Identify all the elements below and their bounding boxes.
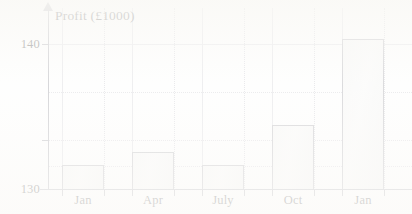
y-axis-label-130: 130 bbox=[0, 182, 40, 197]
chart-title: Profit (£1000) bbox=[55, 8, 135, 24]
gridline-x-1 bbox=[62, 8, 63, 188]
gridline-x-5 bbox=[202, 8, 203, 188]
bar-jan-2 bbox=[342, 39, 384, 189]
x-axis-label-jan-2: Jan bbox=[333, 193, 393, 208]
y-tick-130 bbox=[42, 189, 49, 190]
gridline-x-6 bbox=[244, 8, 245, 188]
y-tick-minor bbox=[42, 140, 49, 141]
gridline-x-10 bbox=[384, 8, 385, 188]
x-axis-label-oct: Oct bbox=[263, 193, 323, 208]
gridline-x-4 bbox=[174, 8, 175, 188]
plot-area: 140 130 Jan Apr July Oct Jan Profit (£10… bbox=[0, 0, 412, 214]
y-axis-arrow-icon bbox=[43, 2, 53, 11]
x-axis-label-jan-1: Jan bbox=[53, 193, 113, 208]
bar-oct bbox=[272, 125, 314, 189]
bar-apr bbox=[132, 152, 174, 189]
gridline-x-2 bbox=[104, 8, 105, 188]
y-tick-140 bbox=[42, 44, 49, 45]
x-axis-label-apr: Apr bbox=[123, 193, 183, 208]
y-axis-line bbox=[48, 8, 49, 189]
x-axis-label-july: July bbox=[193, 193, 253, 208]
bar-jan-1 bbox=[62, 165, 104, 189]
gridline-x-8 bbox=[314, 8, 315, 188]
y-axis-label-140: 140 bbox=[0, 37, 40, 52]
bar-july bbox=[202, 165, 244, 189]
x-axis-line bbox=[40, 189, 412, 190]
chart-page: 140 130 Jan Apr July Oct Jan Profit (£10… bbox=[0, 0, 412, 214]
